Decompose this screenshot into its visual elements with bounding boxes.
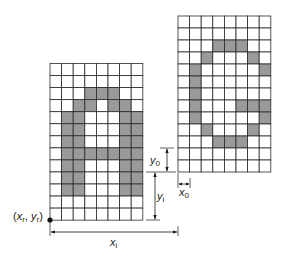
grid-cell-filled [62,148,74,160]
arrowhead-icon [153,173,156,178]
grid-cell-empty [224,148,236,160]
grid-cell-filled [259,112,271,124]
grid-cell-empty [213,160,225,172]
yi-label: yi [156,190,165,204]
grid-cell-filled [190,112,202,124]
grid-cell-filled [190,76,202,88]
grid-cell-empty [73,196,85,208]
grid-cell-empty [190,16,202,28]
grid-cell-empty [108,172,120,184]
grid-cell-empty [259,52,271,64]
grid-cell-empty [50,112,62,124]
grid-cell-filled [190,88,202,100]
grid-cell-filled [190,100,202,112]
grid-cell-filled [108,100,120,112]
grid-cell-empty [248,40,260,52]
grid-cell-empty [131,88,143,100]
grid-cell-empty [224,88,236,100]
grid-cell-empty [178,76,190,88]
grid-cell-empty [236,76,248,88]
grid-cell-empty [85,160,97,172]
grid-cell-filled [259,100,271,112]
grid-cell-filled [201,52,213,64]
grid-cell-empty [50,172,62,184]
grid-cell-empty [213,112,225,124]
grid-cell-filled [120,184,132,196]
grid-cell-empty [224,64,236,76]
grid-cell-empty [201,88,213,100]
grid-cell-empty [248,148,260,160]
grid-cell-empty [178,40,190,52]
grid-cell-empty [201,112,213,124]
grid-cell-filled [62,136,74,148]
grid-cell-empty [96,160,108,172]
x0-label: x0 [178,186,190,200]
grid-cell-empty [201,160,213,172]
grid-cell-empty [224,112,236,124]
grid-cell-empty [259,28,271,40]
grid-cell-empty [62,100,74,112]
grid-cell-empty [236,160,248,172]
grid-cell-filled [96,148,108,160]
y0-dimension: y0 [146,148,176,172]
grid-cell-filled [224,40,236,52]
grid-cell-empty [236,28,248,40]
grid-cell-empty [201,100,213,112]
glyph-placement-diagram: y0 yi x0 xi (xr, yr) [0,0,283,257]
arrowhead-icon [179,183,183,186]
grid-cell-empty [178,52,190,64]
grid-cell-empty [108,124,120,136]
grid-cell-empty [236,16,248,28]
grid-cell-empty [50,196,62,208]
grid-cell-filled [248,100,260,112]
grid-cell-empty [213,148,225,160]
grid-cell-empty [96,76,108,88]
grid-cell-filled [131,112,143,124]
grid-cell-empty [178,28,190,40]
grid-cell-empty [108,136,120,148]
grid-cell-empty [131,64,143,76]
grid-cell-empty [259,40,271,52]
xi-label: xi [109,236,118,250]
grid-cell-empty [178,64,190,76]
grid-cell-empty [178,148,190,160]
grid-cell-filled [190,64,202,76]
y0-label: y0 [149,154,161,168]
grid-cell-empty [178,160,190,172]
grid-cell-empty [201,148,213,160]
grid-cell-empty [248,28,260,40]
grid-cell-empty [201,16,213,28]
grid-cell-empty [96,64,108,76]
grid-cell-empty [73,76,85,88]
grid-cell-empty [259,148,271,160]
grid-cell-empty [120,76,132,88]
grid-cell-empty [62,88,74,100]
grid-cell-filled [73,172,85,184]
grid-cell-empty [50,124,62,136]
grid-cell-empty [50,88,62,100]
grid-cell-filled [85,148,97,160]
grid-cell-filled [85,88,97,100]
grid-cell-empty [108,76,120,88]
grid-cell-empty [190,28,202,40]
grid-cell-empty [236,124,248,136]
grid-cell-empty [178,100,190,112]
grid-cell-empty [224,52,236,64]
grid-cell-empty [85,112,97,124]
grid-cell-empty [190,40,202,52]
grid-cell-empty [190,136,202,148]
grid-cell-empty [259,88,271,100]
grid-cell-empty [248,136,260,148]
grid-cell-empty [178,16,190,28]
grid-cell-empty [248,64,260,76]
grid-cell-empty [85,124,97,136]
grid-cell-empty [120,208,132,220]
grid-cell-empty [96,136,108,148]
grid-cell-empty [73,88,85,100]
grid-cell-filled [213,136,225,148]
grid-cell-empty [224,76,236,88]
grid-cell-empty [50,76,62,88]
grid-cell-empty [201,76,213,88]
glyph-grid-a [50,64,143,221]
grid-cell-empty [213,16,225,28]
